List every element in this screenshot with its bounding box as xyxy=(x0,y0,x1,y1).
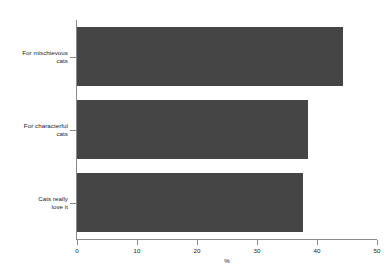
x-tick-label: 50 xyxy=(374,247,381,255)
x-tick-mark xyxy=(137,240,138,245)
x-tick-label: 10 xyxy=(134,247,141,255)
bar xyxy=(77,27,343,86)
y-tick-label: For mischievous cats xyxy=(22,49,68,64)
x-tick-mark xyxy=(317,240,318,245)
x-tick-mark xyxy=(257,240,258,245)
bar-chart: For mischievous catsFor characterful cat… xyxy=(0,0,392,275)
y-tick-label: Cats really love it xyxy=(38,195,68,210)
x-axis-title-label: % xyxy=(224,257,230,264)
x-tick-label: 20 xyxy=(194,247,201,255)
x-tick-mark xyxy=(77,240,78,245)
x-tick-label: 40 xyxy=(314,247,321,255)
x-axis-title: % xyxy=(0,257,392,264)
x-tick-mark xyxy=(377,240,378,245)
x-tick-label: 30 xyxy=(254,247,261,255)
y-tick-mark xyxy=(70,203,77,204)
y-tick-label: For characterful cats xyxy=(24,122,68,137)
y-tick-mark xyxy=(70,130,77,131)
x-axis-line xyxy=(77,239,377,240)
x-tick-mark xyxy=(197,240,198,245)
plot-area xyxy=(77,20,377,239)
bar xyxy=(77,100,308,159)
bar xyxy=(77,173,303,232)
x-tick-label: 0 xyxy=(75,247,79,255)
y-tick-mark xyxy=(70,57,77,58)
